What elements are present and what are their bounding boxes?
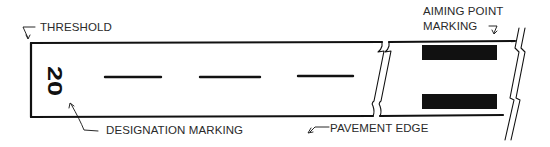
runway-pavement-left — [31, 42, 382, 117]
aiming-point-bar — [422, 94, 497, 109]
threshold-leader — [23, 27, 35, 39]
designation-marking-label: DESIGNATION MARKING — [106, 124, 243, 137]
aiming-point-label-line1: AIMING POINT — [423, 5, 503, 18]
aiming-point-marking — [422, 45, 497, 109]
aiming-point-label-line2: MARKING — [423, 20, 477, 33]
runway-designation-number: 20 — [44, 66, 66, 96]
aiming-point-leader — [489, 26, 497, 34]
runway-marking-diagram: 20 THRESHOLD AIMING POINT MARKING DESIGN… — [0, 0, 550, 147]
pavement-edge-label: PAVEMENT EDGE — [330, 122, 428, 135]
pavement-edge-leader — [308, 127, 329, 133]
centerline-marking — [105, 76, 353, 77]
break-line-right — [505, 28, 525, 140]
break-line-middle — [372, 42, 391, 116]
aiming-point-bar — [422, 45, 497, 60]
threshold-label: THRESHOLD — [40, 21, 112, 34]
